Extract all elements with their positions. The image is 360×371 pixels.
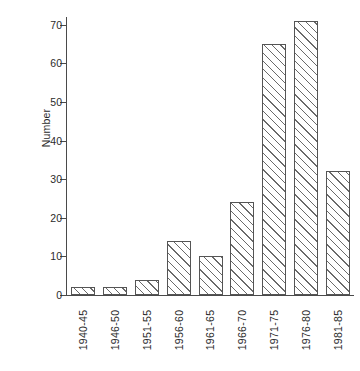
- x-axis-labels: 1940-451946-501951-551956-601961-651966-…: [67, 296, 354, 371]
- x-tick-label-1951-55: 1951-55: [141, 310, 153, 351]
- y-tick-50: 50: [0, 102, 66, 103]
- x-label-slot: 1951-55: [131, 296, 163, 371]
- x-tick-label-1940-45: 1940-45: [77, 310, 89, 351]
- bar-1961-65: [199, 256, 223, 295]
- y-tick-20: 20: [0, 218, 66, 219]
- x-label-slot: 1961-65: [195, 296, 227, 371]
- x-label-slot: 1971-75: [258, 296, 290, 371]
- y-tick-60: 60: [0, 63, 66, 64]
- y-tick-label: 0: [10, 289, 66, 301]
- bar-1981-85: [326, 171, 350, 295]
- y-tick-label: 50: [10, 96, 66, 108]
- x-label-slot: 1940-45: [67, 296, 99, 371]
- y-tick-label: 20: [10, 212, 66, 224]
- plot-area: [67, 17, 354, 295]
- x-tick-label-1966-70: 1966-70: [236, 310, 248, 351]
- bar-1946-50: [103, 287, 127, 295]
- x-tick-label-1981-85: 1981-85: [332, 310, 344, 351]
- x-label-slot: 1966-70: [226, 296, 258, 371]
- bar-1951-55: [135, 280, 159, 295]
- y-tick-label: 10: [10, 250, 66, 262]
- y-tick-label: 30: [10, 173, 66, 185]
- bar-1940-45: [71, 287, 95, 295]
- y-tick-30: 30: [0, 179, 66, 180]
- x-label-slot: 1976-80: [290, 296, 322, 371]
- x-label-slot: 1981-85: [322, 296, 354, 371]
- y-tick-label: 70: [10, 19, 66, 31]
- bar-1966-70: [230, 202, 254, 295]
- x-tick-label-1971-75: 1971-75: [268, 310, 280, 351]
- bar-1956-60: [167, 241, 191, 295]
- x-label-slot: 1946-50: [99, 296, 131, 371]
- y-tick-40: 40: [0, 141, 66, 142]
- y-tick-label: 60: [10, 57, 66, 69]
- bar-1971-75: [262, 44, 286, 295]
- x-tick-label-1956-60: 1956-60: [173, 310, 185, 351]
- y-tick-10: 10: [0, 256, 66, 257]
- x-tick-label-1976-80: 1976-80: [300, 310, 312, 351]
- bar-chart: Number 010203040506070 1940-451946-50195…: [0, 0, 360, 371]
- y-tick-0: 0: [0, 295, 66, 296]
- x-tick-label-1961-65: 1961-65: [204, 310, 216, 351]
- x-label-slot: 1956-60: [163, 296, 195, 371]
- bar-1976-80: [294, 21, 318, 295]
- y-tick-70: 70: [0, 25, 66, 26]
- y-tick-label: 40: [10, 135, 66, 147]
- x-tick-label-1946-50: 1946-50: [109, 310, 121, 351]
